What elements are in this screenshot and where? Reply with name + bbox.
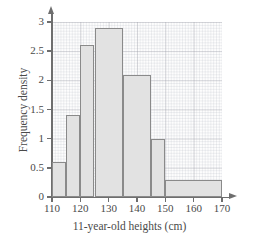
y-axis-tick (47, 80, 52, 81)
y-axis-title: Frequency density (17, 25, 29, 195)
histogram-figure: 00.511.522.53 110120130140150160170 11-y… (0, 0, 259, 244)
histogram-bar (52, 162, 66, 197)
histogram-bar (165, 180, 222, 198)
y-axis-tick (47, 50, 52, 51)
y-axis-tick (47, 138, 52, 139)
histogram-bar (95, 28, 123, 197)
x-axis-tick-label: 170 (202, 203, 242, 214)
histogram-bar (80, 45, 94, 197)
y-axis-tick (47, 21, 52, 22)
histogram-bar (151, 139, 165, 197)
histogram-bar (123, 75, 151, 198)
y-axis-arrow-icon (48, 6, 54, 14)
x-axis-title: 11-year-old heights (cm) (0, 220, 259, 232)
histogram-bar (66, 115, 80, 197)
x-axis-arrow-icon (229, 193, 237, 199)
y-axis-tick (47, 167, 52, 168)
y-axis-tick (47, 109, 52, 110)
